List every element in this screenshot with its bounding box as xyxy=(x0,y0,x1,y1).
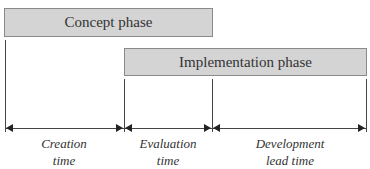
evaluation-time-label: Evaluation time xyxy=(128,135,208,169)
creation-time-line2: time xyxy=(24,152,104,169)
arrowhead-left-icon xyxy=(125,124,132,132)
evaluation-time-span xyxy=(124,128,212,129)
concept-phase-bar: Concept phase xyxy=(4,8,213,37)
arrowhead-right-icon xyxy=(116,124,123,132)
boundary-line-end xyxy=(366,79,367,132)
creation-time-span xyxy=(5,128,124,129)
creation-time-line1: Creation xyxy=(24,135,104,152)
evaluation-time-line1: Evaluation xyxy=(128,135,208,152)
development-lead-time-label: Development lead time xyxy=(245,135,335,169)
development-lead-time-line2: lead time xyxy=(245,152,335,169)
arrowhead-left-icon xyxy=(6,124,13,132)
arrowhead-right-icon xyxy=(204,124,211,132)
creation-time-label: Creation time xyxy=(24,135,104,169)
arrowhead-right-icon xyxy=(358,124,365,132)
evaluation-time-line2: time xyxy=(128,152,208,169)
development-lead-time-span xyxy=(212,128,366,129)
arrowhead-left-icon xyxy=(213,124,220,132)
boundary-line-start xyxy=(5,40,6,132)
implementation-phase-label: Implementation phase xyxy=(179,54,312,71)
implementation-phase-bar: Implementation phase xyxy=(124,48,367,76)
concept-phase-label: Concept phase xyxy=(65,14,153,31)
development-lead-time-line1: Development xyxy=(245,135,335,152)
